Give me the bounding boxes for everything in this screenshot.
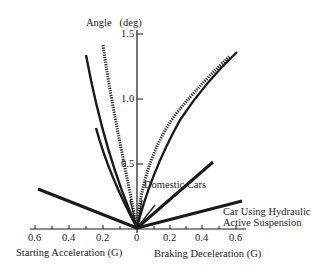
- annotation-active-suspension-line1: Car Using Hydraulic: [223, 206, 310, 217]
- x-tick-right-0.2: 0.2: [163, 232, 176, 243]
- x-axis-title-right: Braking Deceleration (G): [154, 248, 261, 259]
- braking-solid-curve: [137, 52, 237, 228]
- y-tick-1.0: 1.0: [121, 93, 134, 104]
- x-tick-zero: 0: [134, 232, 139, 243]
- y-tick-0.5: 0.5: [121, 158, 134, 169]
- y-ticks: [137, 34, 143, 164]
- starting-hatched-curve: [103, 45, 137, 228]
- x-tick-right-0.4: 0.4: [195, 232, 208, 243]
- braking-hatched-curve: [137, 56, 230, 228]
- x-tick-right-0.6: 0.6: [229, 232, 242, 243]
- starting-solid-outer-curve: [86, 55, 137, 228]
- x-tick-left-0.4: 0.4: [62, 232, 75, 243]
- y-axis-title: Angle (deg): [86, 17, 142, 28]
- y-tick-1.5: 1.5: [121, 28, 134, 39]
- x-tick-left-0.6: 0.6: [28, 232, 41, 243]
- x-tick-left-0.2: 0.2: [96, 232, 109, 243]
- x-axis-title-left: Starting Acceleration (G): [16, 247, 122, 258]
- y-axis-title-angle: Angle: [86, 17, 112, 28]
- annotation-active-suspension-line2: Active Suspension: [223, 217, 301, 228]
- starting-active-suspension-line: [38, 189, 137, 228]
- annotation-domestic-cars: Domestic Cars: [144, 179, 206, 190]
- y-axis-title-unit: (deg): [120, 17, 142, 28]
